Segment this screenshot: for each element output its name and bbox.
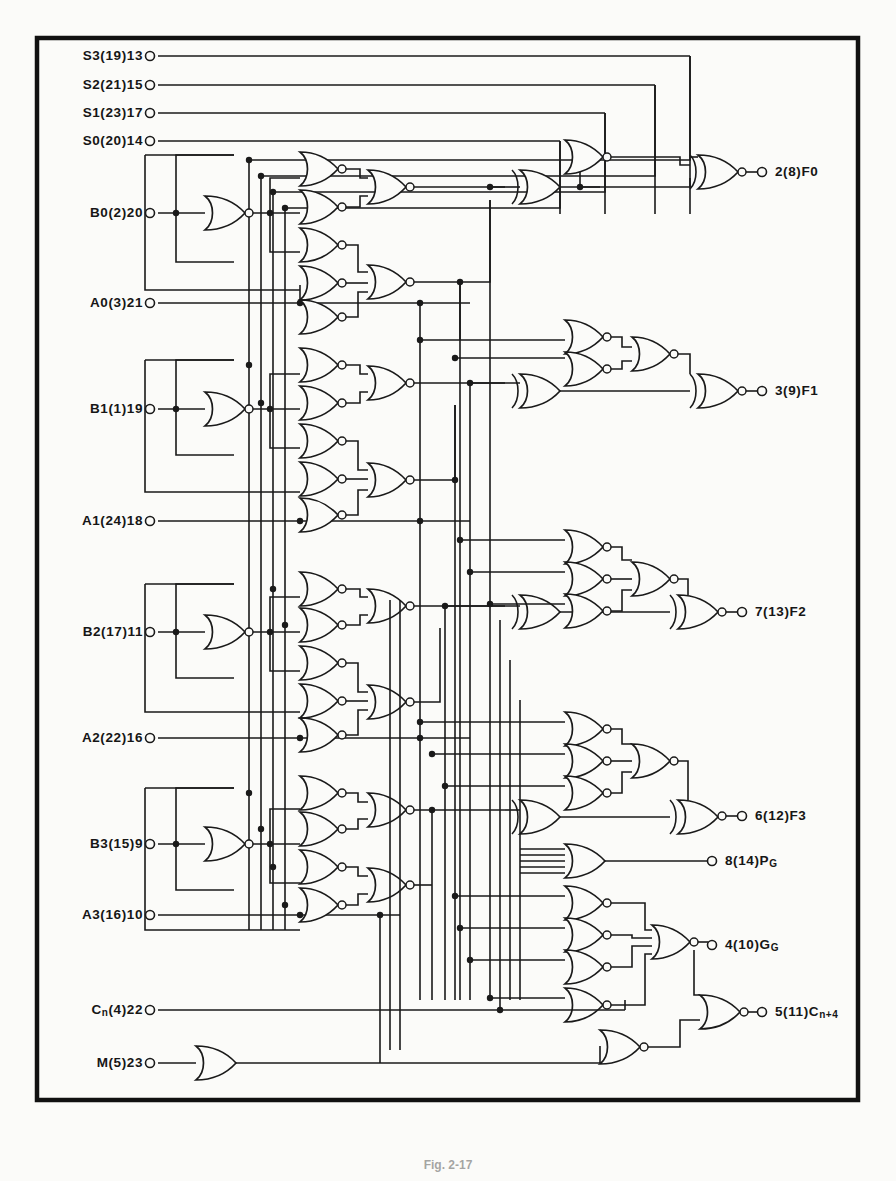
input-label-B0: B0(2)20	[55, 206, 143, 220]
input-pin-S3[interactable]	[146, 52, 155, 61]
input-pin-A0[interactable]	[146, 299, 155, 308]
input-pin-A1[interactable]	[146, 517, 155, 526]
input-pin-S2[interactable]	[146, 81, 155, 90]
input-label-S1: S1(23)17	[55, 106, 143, 120]
input-label-S2: S2(21)15	[55, 78, 143, 92]
input-label-Cn: Cn(4)22	[55, 1003, 143, 1018]
input-pin-B1[interactable]	[146, 405, 155, 414]
input-label-A3: A3(16)10	[55, 908, 143, 922]
input-label-B3: B3(15)9	[55, 837, 143, 851]
output-label-F0: 2(8)F0	[775, 165, 818, 179]
figure-caption: Fig. 2-17	[0, 1158, 896, 1172]
input-pin-B3[interactable]	[146, 840, 155, 849]
input-label-A1: A1(24)18	[55, 514, 143, 528]
input-pins[interactable]	[146, 52, 155, 1068]
input-pin-M[interactable]	[146, 1059, 155, 1068]
input-label-B1: B1(1)19	[55, 402, 143, 416]
wiring-layer	[145, 56, 767, 1080]
output-label-F1: 3(9)F1	[775, 384, 818, 398]
input-label-B2: B2(17)11	[55, 625, 143, 639]
input-label-S0: S0(20)14	[55, 134, 143, 148]
input-label-S3: S3(19)13	[55, 49, 143, 63]
output-label-PG: 8(14)PG	[725, 854, 778, 869]
input-pin-B0[interactable]	[146, 209, 155, 218]
input-pin-S1[interactable]	[146, 109, 155, 118]
output-label-GG: 4(10)GG	[725, 938, 779, 953]
input-pin-S0[interactable]	[146, 137, 155, 146]
input-label-A2: A2(22)16	[55, 731, 143, 745]
output-label-F3: 6(12)F3	[755, 809, 806, 823]
output-label-Cn4: 5(11)Cn+4	[775, 1005, 838, 1020]
input-pin-A2[interactable]	[146, 734, 155, 743]
input-label-M: M(5)23	[55, 1056, 143, 1070]
figure-sheet: S3(19)13 S2(21)15 S1(23)17 S0(20)14 B0(2…	[0, 0, 896, 1181]
input-pin-A3[interactable]	[146, 911, 155, 920]
input-pin-Cn[interactable]	[146, 1006, 155, 1015]
input-label-A0: A0(3)21	[55, 296, 143, 310]
input-pin-B2[interactable]	[146, 628, 155, 637]
output-label-F2: 7(13)F2	[755, 605, 806, 619]
